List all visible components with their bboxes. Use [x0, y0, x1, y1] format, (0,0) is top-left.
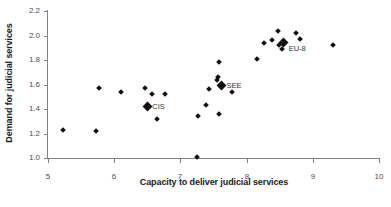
x-tick-mark — [379, 159, 380, 163]
x-tick-label-text: 6 — [112, 172, 116, 181]
x-tick-label-text: 5 — [46, 172, 50, 181]
y-tick-label: 1.4 — [18, 105, 40, 113]
x-tick-label: 6 — [104, 165, 124, 175]
y-tick-label: 1.8 — [18, 56, 40, 64]
y-tick-label-text: 1.2 — [20, 130, 40, 138]
y-tick-label: 1.0 — [18, 154, 40, 162]
group-label-eu-8: EU-8 — [289, 45, 306, 53]
x-tick-label: 7 — [170, 165, 190, 175]
plot-area — [48, 11, 379, 158]
y-tick-label-text: 1.8 — [20, 56, 40, 64]
x-tick-mark — [180, 159, 181, 163]
y-tick-label: 2.2 — [18, 7, 40, 15]
x-tick-mark — [313, 159, 314, 163]
y-tick-label: 2.0 — [18, 32, 40, 40]
y-tick-label: 1.6 — [18, 81, 40, 89]
x-axis-line — [48, 158, 380, 159]
scatter-chart: Demand for judicial services Capacity to… — [0, 0, 391, 207]
y-tick-label-text: 2.2 — [20, 7, 40, 15]
y-tick-label-text: 2.0 — [20, 32, 40, 40]
x-tick-mark — [48, 159, 49, 163]
y-tick-label-text: 1.4 — [20, 105, 40, 113]
x-tick-label: 9 — [303, 165, 323, 175]
x-tick-label-text: 7 — [178, 172, 182, 181]
x-tick-label-text: 9 — [311, 172, 315, 181]
x-tick-mark — [114, 159, 115, 163]
y-tick-label-text: 1.0 — [20, 154, 40, 162]
x-axis-title: Capacity to deliver judicial services — [48, 177, 380, 187]
x-tick-label: 10 — [369, 165, 389, 175]
y-axis-title: Demand for judicial services — [2, 3, 16, 163]
y-tick-label-text: 1.6 — [20, 81, 40, 89]
group-label-see: SEE — [226, 82, 241, 90]
x-tick-label-text: 8 — [245, 172, 249, 181]
x-tick-mark — [247, 159, 248, 163]
group-label-cis: CIS — [152, 103, 165, 111]
x-tick-label: 8 — [237, 165, 257, 175]
y-tick-label: 1.2 — [18, 130, 40, 138]
x-tick-label: 5 — [38, 165, 58, 175]
x-tick-label-text: 10 — [375, 172, 384, 181]
